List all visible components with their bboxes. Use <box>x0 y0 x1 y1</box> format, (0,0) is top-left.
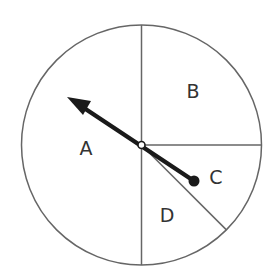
section-label-a: A <box>80 137 93 159</box>
section-label-c: C <box>209 166 222 188</box>
spinner-diagram: A B C D <box>0 0 280 279</box>
spinner-svg: A B C D <box>0 0 280 279</box>
section-label-b: B <box>186 80 199 102</box>
section-label-d: D <box>160 204 175 226</box>
pivot-icon <box>138 142 145 149</box>
pointer-tail-dot <box>189 176 200 187</box>
